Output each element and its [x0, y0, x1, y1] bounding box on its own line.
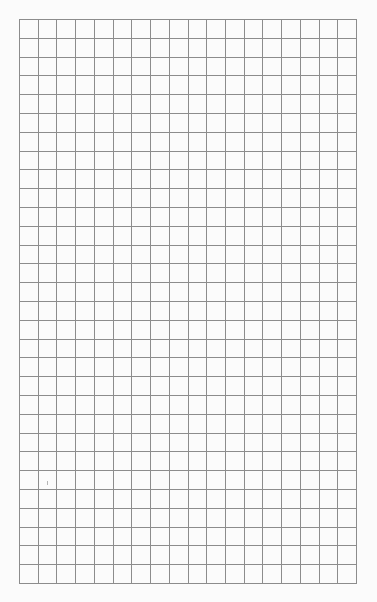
- grid-lines: [19, 19, 357, 584]
- square-grid: [19, 19, 357, 584]
- pencil-mark: [47, 481, 48, 485]
- graph-paper-sheet: [0, 0, 377, 602]
